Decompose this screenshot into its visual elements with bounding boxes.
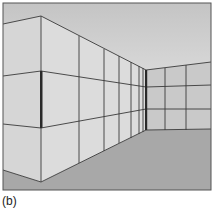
near-corner-shadow <box>40 71 43 128</box>
far-corner-shadow <box>145 70 147 130</box>
back-wall <box>146 62 211 130</box>
near-left-wall <box>3 16 41 182</box>
room-perspective-illustration <box>0 0 212 208</box>
figure-label: (b) <box>2 194 17 208</box>
